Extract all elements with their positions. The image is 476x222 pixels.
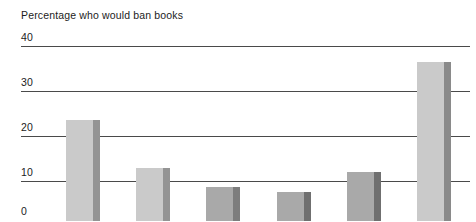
bar-5[interactable] bbox=[347, 172, 381, 221]
bar-side-edge bbox=[444, 62, 451, 221]
tick-stub-30 bbox=[456, 91, 470, 92]
gridline-40 bbox=[21, 46, 470, 47]
bar-face bbox=[277, 192, 304, 221]
ytick-label-10: 10 bbox=[21, 166, 33, 178]
bar-3[interactable] bbox=[206, 187, 240, 221]
bar-side-edge bbox=[374, 172, 381, 221]
plot-area: 40 30 20 10 0 bbox=[0, 0, 476, 221]
bar-2[interactable] bbox=[136, 168, 170, 222]
bar-face bbox=[206, 187, 233, 221]
bar-face bbox=[347, 172, 374, 221]
bar-side-edge bbox=[163, 168, 170, 222]
bar-side-edge bbox=[93, 120, 100, 221]
bar-chart: Percentage who would ban books 40 30 20 … bbox=[0, 0, 476, 221]
bar-face bbox=[66, 120, 93, 221]
bar-face bbox=[417, 62, 444, 221]
ytick-label-0: 0 bbox=[21, 205, 27, 217]
gridline-30 bbox=[21, 91, 470, 92]
bar-face bbox=[136, 168, 163, 222]
bar-1[interactable] bbox=[66, 120, 100, 221]
ytick-label-40: 40 bbox=[21, 31, 33, 43]
tick-stub-20 bbox=[456, 136, 470, 137]
ytick-label-20: 20 bbox=[21, 121, 33, 133]
bar-4[interactable] bbox=[277, 192, 311, 221]
tick-stub-10 bbox=[456, 181, 470, 182]
ytick-label-30: 30 bbox=[21, 76, 33, 88]
bar-side-edge bbox=[304, 192, 311, 221]
bar-side-edge bbox=[233, 187, 240, 221]
bar-6[interactable] bbox=[417, 62, 451, 221]
